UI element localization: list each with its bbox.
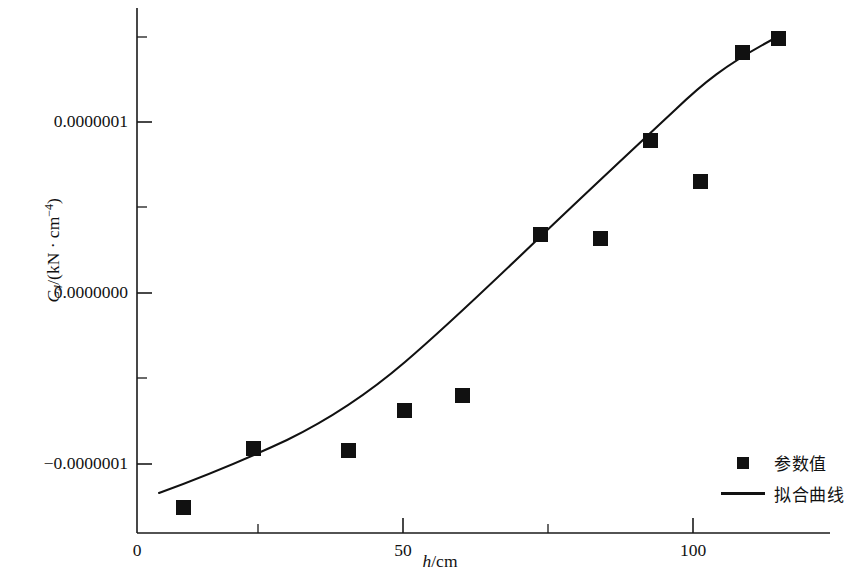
y-axis-title-subscript: 4 bbox=[51, 285, 65, 291]
y-axis-title-symbol: C bbox=[43, 291, 63, 303]
data-point bbox=[593, 231, 608, 246]
y-tick-label-neg1e-7: −0.0000001 bbox=[0, 455, 128, 473]
data-markers bbox=[176, 31, 786, 515]
legend-label-fitted-curve: 拟合曲线 bbox=[774, 481, 844, 506]
fitted-curve bbox=[159, 35, 781, 493]
data-point bbox=[771, 31, 786, 46]
y-axis-title-exponent: −4 bbox=[42, 204, 56, 217]
x-axis-title: h/cm bbox=[380, 551, 500, 572]
chart-container: 0.0000001 0.0000000 −0.0000001 0 50 100 … bbox=[0, 0, 846, 579]
data-point bbox=[693, 174, 708, 189]
x-axis-title-unit: /cm bbox=[431, 551, 457, 571]
legend-square-marker-icon bbox=[712, 457, 774, 469]
y-axis-title-paren: ) bbox=[43, 198, 63, 204]
data-point bbox=[643, 133, 658, 148]
data-point bbox=[176, 500, 191, 515]
legend-label-data-points: 参数值 bbox=[774, 450, 827, 475]
x-tick-label-100: 100 bbox=[663, 542, 723, 560]
legend-item-data-points: 参数值 bbox=[712, 447, 846, 478]
y-tick-label-1e-7: 0.0000001 bbox=[0, 113, 128, 131]
data-point bbox=[397, 403, 412, 418]
legend-item-fitted-curve: 拟合曲线 bbox=[712, 478, 846, 509]
y-axis-title-unit: /(kN · cm bbox=[43, 217, 63, 285]
x-axis-title-symbol: h bbox=[423, 551, 432, 571]
data-point bbox=[455, 388, 470, 403]
data-point bbox=[246, 441, 261, 456]
data-point bbox=[735, 45, 750, 60]
chart-legend: 参数值 拟合曲线 bbox=[712, 447, 846, 509]
x-tick-label-0: 0 bbox=[107, 542, 167, 560]
data-point bbox=[341, 443, 356, 458]
data-point bbox=[533, 227, 548, 242]
legend-line-segment-icon bbox=[712, 492, 774, 494]
y-axis-title: C4/(kN · cm−4) bbox=[42, 160, 67, 340]
